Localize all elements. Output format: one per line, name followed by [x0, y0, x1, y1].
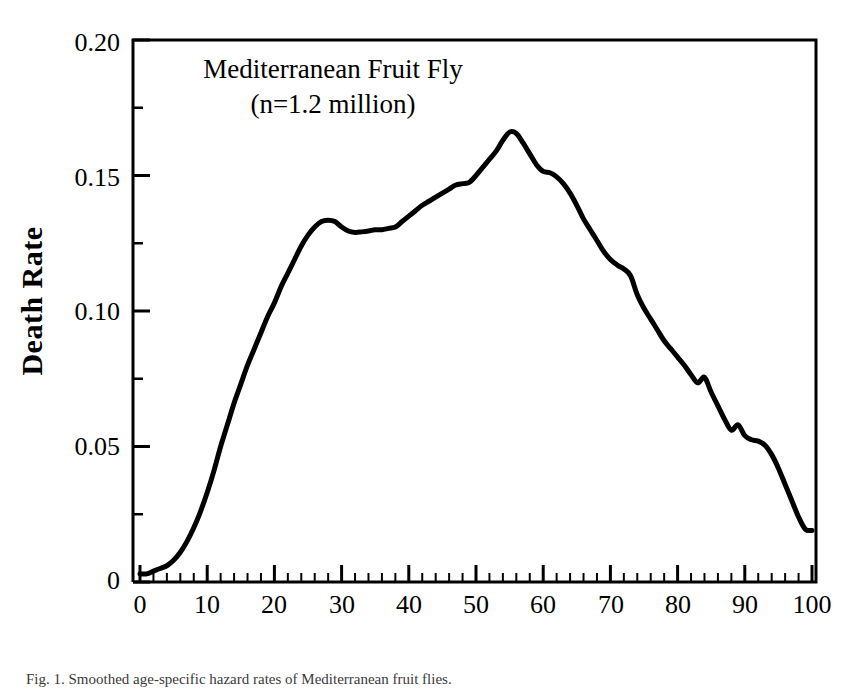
x-axis-ticks [140, 565, 812, 582]
figure-medfly-death-rate: Death Rate 0.20 0.15 0.10 0.05 0 0 10 20… [0, 0, 842, 690]
figure-caption: Fig. 1. Smoothed age-specific hazard rat… [26, 670, 826, 688]
y-axis-ticks [133, 40, 150, 582]
annotation-line-1: Mediterranean Fruit Fly [168, 52, 498, 87]
death-rate-curve [140, 132, 812, 575]
annotation-line-2: (n=1.2 million) [168, 87, 498, 122]
plot-annotation: Mediterranean Fruit Fly (n=1.2 million) [168, 52, 498, 122]
x-tick-100: 100 [767, 590, 842, 620]
